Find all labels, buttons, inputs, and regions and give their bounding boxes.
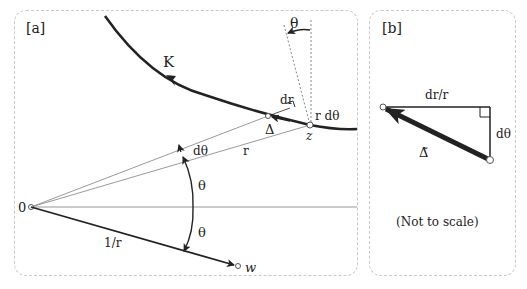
inv-r-label: 1/r <box>104 236 122 250</box>
r-dtheta-label: r dθ <box>315 109 339 123</box>
dr-label: dr <box>280 93 294 107</box>
ray-to-neighbor <box>31 116 268 207</box>
delta-label: Δ <box>265 122 274 137</box>
panel-a-tag: [a] <box>26 20 45 36</box>
right-angle-mark-b <box>480 107 490 117</box>
not-to-scale-note: (Not to scale) <box>396 215 479 229</box>
dtheta-arrow <box>179 145 181 152</box>
diagram-canvas: [a] K θ dr r dθ Δ z dθ r θ θ 0 1/r w [b]… <box>0 0 527 289</box>
delta-tilde-label: Δ̃ <box>419 145 428 160</box>
theta-upper-label: θ <box>198 178 206 193</box>
dtheta-b-label: dθ <box>496 127 511 141</box>
z-label: z <box>305 129 313 143</box>
panel-b-tag: [b] <box>382 20 402 36</box>
w-point <box>236 264 241 269</box>
origin-label: 0 <box>18 200 26 215</box>
delta-tilde-vector <box>386 109 490 160</box>
z-point <box>307 122 313 128</box>
theta-lower-arc <box>184 207 193 251</box>
theta-top-label: θ <box>290 15 298 31</box>
w-label: w <box>245 260 256 275</box>
tilted-guide <box>284 25 310 125</box>
curve-k-label: K <box>163 53 175 71</box>
theta-upper-arc <box>183 157 193 207</box>
neighbor-point <box>266 114 271 119</box>
r-label: r <box>243 144 249 158</box>
curve-arrow-icon <box>166 75 176 86</box>
panel-b-drawing <box>380 104 494 164</box>
b-tip-point <box>380 104 386 110</box>
b-base-point <box>487 157 494 164</box>
theta-lower-label: θ <box>198 225 206 240</box>
dtheta-label: dθ <box>193 144 208 158</box>
dr-over-r-label: dr/r <box>425 88 448 102</box>
ray-to-z <box>31 125 310 207</box>
